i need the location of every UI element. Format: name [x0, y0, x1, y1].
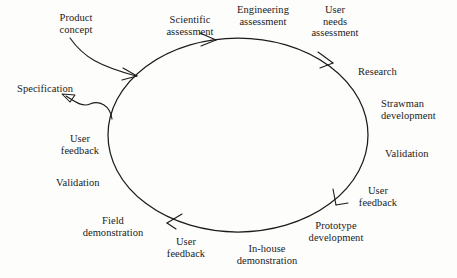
- cycle-diagram: Product concept Scientific assessment En…: [0, 0, 457, 278]
- label-validation-left: Validation: [56, 177, 100, 189]
- label-strawman-development: Strawman development: [381, 98, 436, 121]
- label-field-demonstration: Field demonstration: [83, 215, 144, 238]
- label-user-feedback-right: User feedback: [359, 185, 397, 208]
- label-engineering-assessment: Engineering assessment: [237, 4, 289, 27]
- cycle-arrowhead-bottom-right: [333, 189, 348, 205]
- label-product-concept: Product concept: [59, 12, 92, 35]
- label-prototype-development: Prototype development: [309, 220, 364, 243]
- label-user-feedback-bottom: User feedback: [167, 236, 205, 259]
- label-user-feedback-left: User feedback: [61, 133, 99, 156]
- cycle-ellipse: [108, 38, 368, 232]
- label-validation-right: Validation: [385, 148, 429, 160]
- label-scientific-assessment: Scientific assessment: [166, 14, 213, 37]
- label-user-needs-assessment: User needs assessment: [311, 4, 358, 39]
- specification-arrow-line: [66, 96, 112, 119]
- label-research: Research: [358, 66, 397, 78]
- label-in-house-demonstration: In-house demonstration: [237, 243, 298, 266]
- label-specification: Specification: [17, 83, 73, 95]
